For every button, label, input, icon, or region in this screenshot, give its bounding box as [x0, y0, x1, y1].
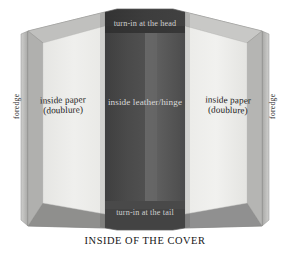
book-cover-illustration: [0, 0, 290, 259]
figure-caption: INSIDE OF THE COVER: [0, 235, 290, 246]
right-board-bevel-foredge: [247, 31, 262, 226]
figure-inside-of-the-cover: inside paper (doublure) inside paper (do…: [0, 0, 290, 259]
left-inside-paper-doublure: [43, 26, 105, 214]
right-foredge-edge-strip: [262, 31, 269, 226]
left-foredge-edge-strip: [21, 31, 28, 226]
turn-in-at-tail-band: [105, 201, 185, 230]
right-inside-paper-doublure: [185, 26, 247, 214]
hinge-centre-highlight: [145, 13, 157, 228]
left-board-bevel-foredge: [28, 31, 43, 226]
inside-leather-hinge-left: [105, 12, 145, 228]
turn-in-at-head-band: [105, 9, 185, 33]
